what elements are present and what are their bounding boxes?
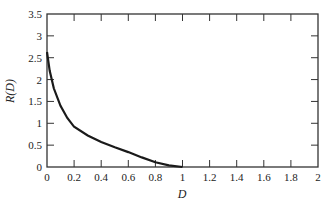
x-tick-label: 1.6 xyxy=(257,171,271,183)
y-axis-label: R(D) xyxy=(3,79,17,104)
y-tick-label: 2.5 xyxy=(28,52,42,64)
x-tick-label: 2 xyxy=(315,171,321,183)
y-tick-label: 3.5 xyxy=(28,8,42,20)
x-tick-label: 1.2 xyxy=(203,171,217,183)
y-tick-label: 0 xyxy=(37,161,43,173)
y-tick-label: 1 xyxy=(37,117,43,129)
x-tick-label: 0.8 xyxy=(149,171,163,183)
y-tick-label: 3 xyxy=(37,30,43,42)
x-tick-label: 1.4 xyxy=(230,171,244,183)
x-tick-label: 1.8 xyxy=(284,171,298,183)
x-axis-label: D xyxy=(177,187,187,201)
x-tick-label: 1 xyxy=(180,171,186,183)
y-tick-label: 0.5 xyxy=(28,139,42,151)
x-tick-label: 0.6 xyxy=(121,171,135,183)
x-axis-ticks: 00.20.40.60.811.21.41.61.82 xyxy=(44,14,321,183)
plot-frame xyxy=(47,14,318,167)
x-tick-label: 0.4 xyxy=(94,171,108,183)
y-tick-label: 1.5 xyxy=(28,95,42,107)
rate-distortion-chart: 00.20.40.60.811.21.41.61.82 00.511.522.5… xyxy=(0,0,329,209)
y-axis-ticks: 00.511.522.533.5 xyxy=(28,8,318,173)
y-tick-label: 2 xyxy=(37,74,43,86)
rd-curve xyxy=(47,52,183,167)
x-tick-label: 0.2 xyxy=(67,171,81,183)
x-tick-label: 0 xyxy=(44,171,50,183)
